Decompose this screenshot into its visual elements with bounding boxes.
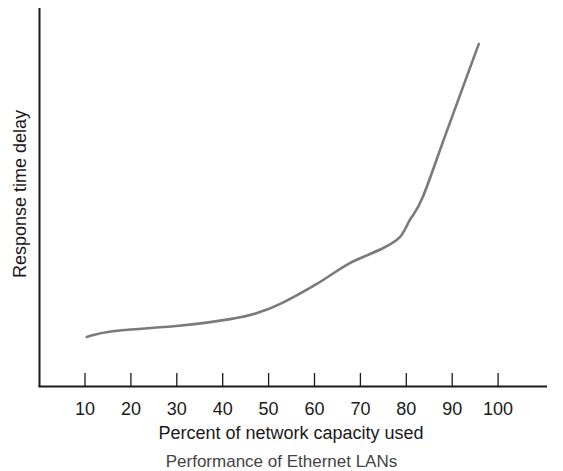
x-ticks: [85, 373, 498, 386]
x-tick-label: 50: [259, 399, 279, 419]
x-tick-label: 90: [442, 399, 462, 419]
x-tick-label: 60: [304, 399, 324, 419]
x-tick-label: 10: [75, 399, 95, 419]
x-tick-label: 30: [167, 399, 187, 419]
x-tick-label: 70: [350, 399, 370, 419]
response-time-curve: [87, 44, 479, 337]
x-tick-label: 20: [121, 399, 141, 419]
y-axis-label: Response time delay: [10, 110, 30, 278]
x-tick-label: 80: [396, 399, 416, 419]
x-axis-label: Percent of network capacity used: [158, 423, 423, 443]
x-tick-label: 40: [213, 399, 233, 419]
x-tick-label: 100: [483, 399, 513, 419]
x-tick-labels: 102030405060708090100: [75, 399, 513, 419]
figure-caption: Performance of Ethernet LANs: [0, 452, 563, 471]
